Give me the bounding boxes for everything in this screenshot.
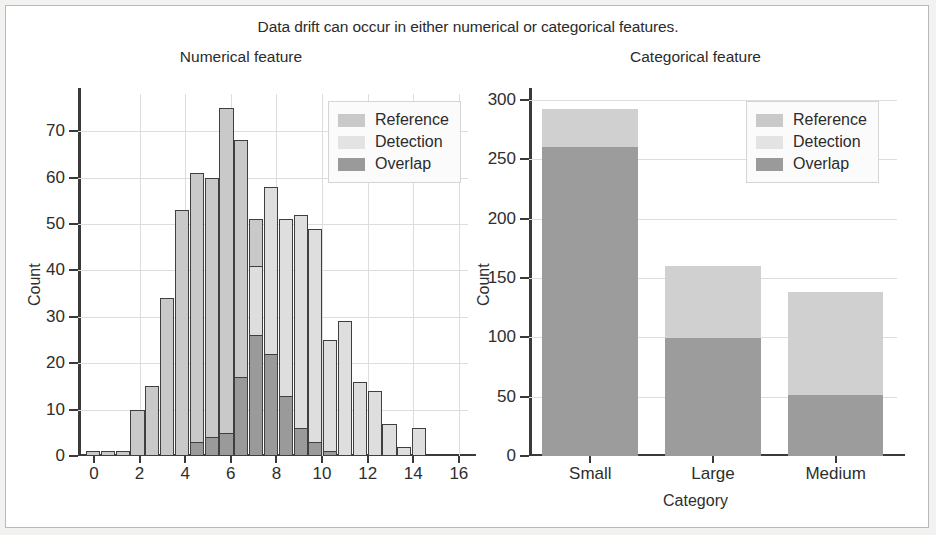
histogram-bar-overlap	[249, 335, 263, 456]
x-tick	[321, 456, 323, 463]
stacked-bar-detection	[788, 292, 884, 395]
legend-item-detection: Detection	[756, 131, 867, 153]
x-tick	[589, 456, 591, 463]
histogram-bar-overlap	[205, 437, 219, 456]
legend-item-overlap: Overlap	[756, 153, 867, 175]
legend-swatch-reference	[756, 114, 783, 127]
y-tick-label: 200	[488, 208, 516, 228]
histogram-bar-overlap	[219, 433, 233, 456]
histogram-bar-detection	[294, 215, 308, 456]
stacked-bar-detection	[665, 266, 761, 338]
x-tick	[184, 456, 186, 463]
histogram-bar-reference	[145, 386, 159, 456]
histogram-bar-overlap	[264, 354, 278, 456]
y-tick-label: 40	[46, 260, 65, 280]
x-axis-label-categorical: Category	[461, 492, 930, 510]
legend-label-reference: Reference	[375, 111, 449, 129]
y-tick	[69, 269, 78, 271]
x-tick-label: 4	[180, 464, 189, 484]
legend-item-detection: Detection	[338, 131, 449, 153]
legend-swatch-overlap	[338, 158, 365, 171]
y-tick	[520, 277, 529, 279]
y-tick-label: 0	[56, 446, 65, 466]
y-tick-label: 250	[488, 149, 516, 169]
x-tick	[230, 456, 232, 463]
histogram-bar-detection	[397, 447, 411, 456]
x-tick	[139, 456, 141, 463]
legend-swatch-reference	[338, 114, 365, 127]
histogram-bar-detection	[368, 391, 382, 456]
y-axis-label-numerical: Count	[26, 263, 44, 306]
y-tick	[69, 362, 78, 364]
y-tick	[69, 130, 78, 132]
histogram-bar-reference	[205, 178, 219, 456]
y-tick	[69, 316, 78, 318]
histogram-bar-overlap	[323, 451, 337, 456]
panel-categorical-feature: Categorical feature Count 05010015020025…	[461, 6, 930, 529]
figure-frame: Data drift can occur in either numerical…	[5, 5, 929, 528]
stacked-bar-detection	[542, 109, 638, 147]
y-tick-label: 10	[46, 399, 65, 419]
histogram-bar-overlap	[294, 428, 308, 456]
x-tick-label: Small	[569, 464, 612, 484]
x-tick-label: 2	[135, 464, 144, 484]
histogram-bar-detection	[323, 340, 337, 456]
histogram-bar-overlap	[190, 442, 204, 456]
legend-swatch-overlap	[756, 158, 783, 171]
y-tick	[69, 177, 78, 179]
histogram-bar-reference	[86, 451, 100, 456]
legend-label-overlap: Overlap	[375, 155, 431, 173]
x-tick-label: 0	[89, 464, 98, 484]
histogram-bar-overlap	[279, 396, 293, 456]
stacked-bar-overlap	[665, 338, 761, 456]
histogram-bar-reference	[175, 210, 189, 456]
y-tick	[520, 158, 529, 160]
histogram-bar-detection	[382, 424, 396, 456]
legend-item-reference: Reference	[756, 109, 867, 131]
x-tick	[835, 456, 837, 463]
gridline-vertical	[140, 94, 141, 456]
chart-title-numerical: Numerical feature	[6, 48, 476, 66]
histogram-bar-detection	[353, 382, 367, 456]
stacked-bar-overlap	[788, 395, 884, 456]
histogram-bar-detection	[338, 321, 352, 456]
x-tick-label: 12	[358, 464, 377, 484]
x-tick-label: 10	[313, 464, 332, 484]
y-tick	[520, 455, 529, 457]
legend-item-reference: Reference	[338, 109, 449, 131]
histogram-bar-reference	[101, 451, 115, 456]
panel-numerical-feature: Numerical feature Count 0102030405060700…	[6, 6, 476, 529]
y-tick	[520, 336, 529, 338]
y-tick-label: 20	[46, 353, 65, 373]
y-axis-categorical	[529, 88, 532, 456]
legend-label-overlap: Overlap	[793, 155, 849, 173]
y-tick-label: 50	[46, 214, 65, 234]
legend-label-detection: Detection	[793, 133, 861, 151]
y-axis-numerical	[78, 88, 81, 456]
legend-swatch-detection	[338, 136, 365, 149]
histogram-bar-reference	[130, 410, 144, 456]
legend-item-overlap: Overlap	[338, 153, 449, 175]
histogram-bar-reference	[219, 108, 233, 456]
stacked-bar-overlap	[542, 147, 638, 456]
x-tick	[458, 456, 460, 463]
x-tick	[412, 456, 414, 463]
y-tick-label: 50	[497, 386, 516, 406]
x-tick	[93, 456, 95, 463]
histogram-bar-detection	[412, 428, 426, 456]
x-tick-label: 6	[226, 464, 235, 484]
chart-title-categorical: Categorical feature	[461, 48, 930, 66]
y-tick	[520, 218, 529, 220]
y-tick-label: 0	[507, 446, 516, 466]
x-tick-label: Large	[691, 464, 734, 484]
legend-numerical: Reference Detection Overlap	[328, 101, 461, 183]
histogram-bar-reference	[160, 298, 174, 456]
x-tick	[712, 456, 714, 463]
y-tick-label: 300	[488, 90, 516, 110]
y-tick	[520, 396, 529, 398]
x-tick	[275, 456, 277, 463]
x-tick-label: 14	[404, 464, 423, 484]
histogram-bar-detection	[308, 229, 322, 456]
x-tick	[367, 456, 369, 463]
histogram-bar-overlap	[234, 377, 248, 456]
